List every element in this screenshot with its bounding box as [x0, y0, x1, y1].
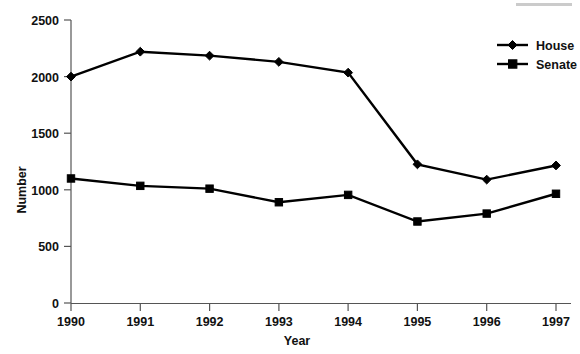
x-tick-label-1996: 1996: [473, 315, 501, 329]
diamond-marker: [136, 47, 145, 56]
x-tick-label-1993: 1993: [265, 315, 293, 329]
square-marker: [483, 210, 490, 217]
x-axis-title: Year: [284, 334, 311, 348]
diamond-marker: [552, 161, 561, 170]
scan-artifact-line: [516, 3, 572, 6]
diamond-marker: [482, 175, 491, 184]
line-chart: 2500 2000 1500 1000 500 0 1990 1991 1992…: [0, 0, 580, 354]
chart-canvas: 2500 2000 1500 1000 500 0 1990 1991 1992…: [0, 0, 580, 354]
y-axis: 2500 2000 1500 1000 500 0: [31, 14, 71, 311]
square-marker: [552, 190, 559, 197]
y-tick-label-0: 0: [52, 297, 59, 311]
y-tick-label-500: 500: [38, 240, 59, 254]
legend-label-house: House: [536, 39, 574, 53]
x-tick-label-1991: 1991: [126, 315, 154, 329]
x-tick-label-1990: 1990: [57, 315, 85, 329]
y-tick-label-2000: 2000: [31, 71, 59, 85]
series-house: [67, 47, 561, 184]
y-axis-title: Number: [15, 166, 29, 213]
x-tick-label-1995: 1995: [403, 315, 431, 329]
square-marker: [137, 182, 144, 189]
square-marker: [344, 191, 351, 198]
square-marker: [206, 185, 213, 192]
y-tick-label-2500: 2500: [31, 14, 59, 28]
square-marker: [275, 199, 282, 206]
x-axis: 1990 1991 1992 1993 1994 1995 1996 1997: [57, 304, 571, 330]
square-marker-icon: [509, 60, 517, 68]
legend-label-senate: Senate: [536, 58, 577, 72]
diamond-marker-icon: [508, 41, 517, 50]
legend: House Senate: [497, 39, 577, 72]
diamond-marker: [274, 57, 283, 66]
square-marker: [414, 218, 421, 225]
x-tick-label-1997: 1997: [542, 315, 570, 329]
legend-item-senate[interactable]: Senate: [497, 58, 577, 72]
x-tick-label-1992: 1992: [196, 315, 224, 329]
diamond-marker: [205, 51, 214, 60]
x-tick-label-1994: 1994: [334, 315, 362, 329]
square-marker: [67, 175, 74, 182]
y-tick-label-1500: 1500: [31, 127, 59, 141]
diamond-marker: [67, 72, 76, 81]
y-tick-label-1000: 1000: [31, 184, 59, 198]
legend-item-house[interactable]: House: [497, 39, 574, 53]
series-house-line: [71, 52, 556, 180]
